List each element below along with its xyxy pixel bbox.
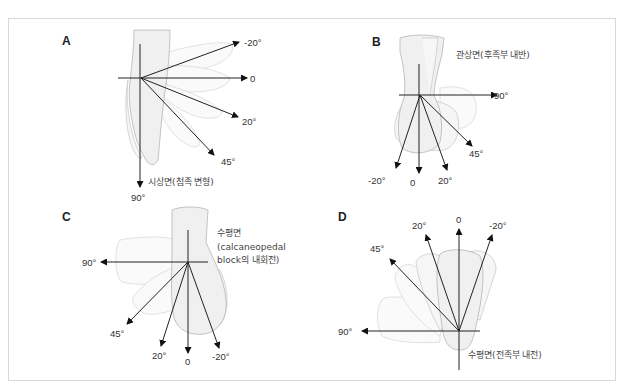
angle-label: 90° (131, 192, 146, 203)
foot-deformity-diagram: A -20° 0 20° 45° 90° 시상면(첨족 변형) B (0, 0, 624, 387)
panel-d: D 0 20° -20° 45° 90° 수평면(전족부 내전) (338, 210, 542, 370)
panel-b: B 90° 45° 20° 0 -20° 관상면(후족부 내반) (368, 35, 530, 188)
plane-caption-b: 관상면(후족부 내반) (456, 50, 530, 60)
angle-label: 45° (221, 156, 236, 167)
plane-caption-c-line-2: (calcaneopedal (217, 242, 286, 252)
plane-caption-d: 수평면(전족부 내전) (468, 350, 542, 360)
plane-caption-c-line-1: 수평면 (217, 228, 241, 238)
angle-label: 90° (494, 90, 509, 101)
panel-letter-d: D (338, 210, 347, 224)
angle-label: 0 (410, 177, 415, 188)
angle-label: 90° (338, 326, 353, 337)
angle-label: 90° (82, 257, 97, 268)
angle-label: 0 (185, 356, 190, 367)
angle-label: -20° (489, 220, 507, 231)
angle-label: 0 (456, 214, 461, 225)
angle-label: 20° (242, 116, 257, 127)
angle-label: 45° (110, 328, 125, 339)
panel-letter-b: B (372, 35, 381, 49)
angle-label: -20° (212, 351, 230, 362)
angle-label: 20° (438, 175, 453, 186)
angle-label: 45° (370, 243, 385, 254)
angle-label: -20° (368, 175, 386, 186)
plane-caption-c-line-3: block의 내회전) (217, 255, 279, 265)
angle-label: 0 (250, 73, 255, 84)
panel-c: C 90° 45° 20° 0 -20° 수평면 (calcaneopedal … (62, 207, 286, 367)
foot-illustration-horizontal-rotation (116, 207, 227, 334)
angle-label: 20° (412, 220, 427, 231)
angle-label: 45° (469, 148, 484, 159)
panel-letter-a: A (62, 34, 71, 48)
panel-letter-c: C (62, 210, 71, 224)
angle-label: 20° (152, 350, 167, 361)
plane-caption-a: 시상면(첨족 변형) (148, 177, 214, 187)
angle-label: -20° (244, 37, 262, 48)
panel-a: A -20° 0 20° 45° 90° 시상면(첨족 변형) (62, 30, 262, 203)
